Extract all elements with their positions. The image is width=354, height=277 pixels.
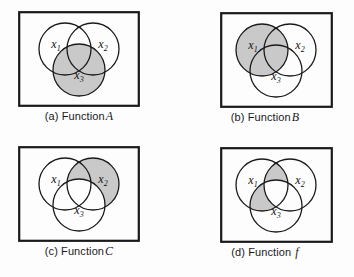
caption-b: (b) FunctionB (197, 110, 333, 125)
caption-name-d: f (291, 245, 298, 259)
shaded-region-d (197, 147, 333, 243)
caption-prefix-d: (d) Function (231, 246, 291, 258)
caption-d: (d) Functionf (197, 245, 333, 260)
panel-a: x1 x2 x3 (a) FunctionA (18, 11, 140, 107)
panel-d: x1 x2 x3 (d) Functionf (197, 147, 333, 243)
venn-diagram-b: x1 x2 x3 (197, 12, 333, 108)
caption-prefix-a: (a) Function (45, 110, 105, 122)
venn-diagram-d: x1 x2 x3 (197, 147, 333, 243)
venn-diagram-c: x1 x2 x3 (18, 146, 140, 242)
panel-c: x1 x2 x3 (c) FunctionC (18, 146, 140, 242)
caption-c: (c) FunctionC (18, 244, 140, 259)
caption-name-b: B (291, 110, 299, 124)
caption-prefix-c: (c) Function (45, 245, 104, 257)
caption-name-a: A (105, 109, 113, 123)
panel-b: x1 x2 x3 (b) FunctionB (197, 12, 333, 108)
caption-a: (a) FunctionA (18, 109, 140, 124)
venn-figure: x1 x2 x3 (a) FunctionA x1 x2 x3 (b) (0, 0, 354, 277)
venn-diagram-a: x1 x2 x3 (18, 11, 140, 107)
caption-name-c: C (104, 244, 113, 258)
shaded-region-c (18, 146, 140, 242)
caption-prefix-b: (b) Function (231, 111, 291, 123)
